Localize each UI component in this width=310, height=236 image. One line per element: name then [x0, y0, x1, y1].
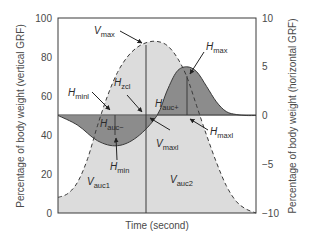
hminl-label: Hminl: [68, 87, 89, 101]
svg-text:100: 100: [35, 13, 52, 24]
right-axis-ticks: 10 5 0 −5 −10: [262, 13, 279, 219]
y-right-label: Percentage of body weight (horizontal GR…: [287, 18, 298, 213]
svg-text:−10: −10: [262, 208, 279, 219]
svg-text:5: 5: [262, 61, 268, 72]
svg-text:0: 0: [262, 110, 268, 121]
svg-text:−5: −5: [262, 159, 274, 170]
hmax-arrow: [190, 52, 204, 74]
hmaxl-label: Hmaxl: [210, 126, 233, 140]
vmax-arrow: [120, 31, 142, 43]
svg-text:20: 20: [41, 169, 53, 180]
svg-text:10: 10: [262, 13, 274, 24]
grf-chart: 100 80 60 40 20 0 10 5 0 −5 −10 Percenta…: [0, 0, 310, 236]
svg-text:80: 80: [41, 52, 53, 63]
svg-text:60: 60: [41, 91, 53, 102]
hmax-label: Hmax: [206, 41, 228, 55]
svg-text:40: 40: [41, 130, 53, 141]
svg-text:0: 0: [46, 208, 52, 219]
left-axis-ticks: 100 80 60 40 20 0: [35, 13, 52, 219]
y-left-label: Percentage of body weight (vertical GRF): [15, 24, 26, 207]
x-axis-label: Time (second): [125, 220, 189, 231]
vmax-label: Vmax: [94, 25, 115, 39]
